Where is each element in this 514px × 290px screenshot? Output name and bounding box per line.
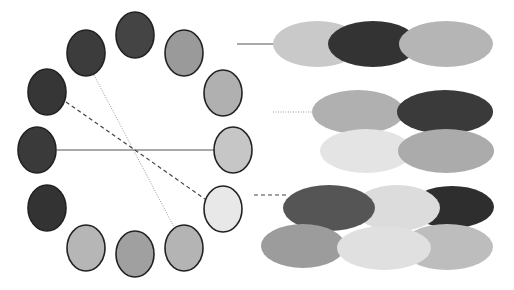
group-dashed-ellipse-2 xyxy=(283,185,375,231)
group-solid-ellipse-2 xyxy=(399,21,493,67)
ellipse-groups xyxy=(237,21,494,270)
group-solid xyxy=(237,21,493,67)
ring-circle-bottom-right xyxy=(165,225,203,271)
ring-circle-left xyxy=(18,127,56,173)
ring-circle-top xyxy=(116,12,154,58)
ring-circle-left-lower xyxy=(28,185,66,231)
connector-lines xyxy=(57,75,214,227)
ring-circle-left-upper xyxy=(28,69,66,115)
group-dotted-ellipse-0 xyxy=(312,90,404,134)
group-dashed xyxy=(254,185,494,270)
group-dashed-ellipse-3 xyxy=(261,224,345,268)
dotted-connector-line xyxy=(94,75,174,227)
group-dashed-ellipse-5 xyxy=(337,226,431,270)
group-dotted xyxy=(273,90,494,173)
ring-circle-bottom-left xyxy=(67,225,105,271)
ring-circle-bottom xyxy=(116,231,154,277)
ring-circle-right xyxy=(214,127,252,173)
circle-grouping-diagram xyxy=(0,0,514,290)
group-dotted-ellipse-3 xyxy=(398,129,494,173)
ring-circle-right-upper xyxy=(204,70,242,116)
group-dotted-ellipse-1 xyxy=(397,90,493,134)
ring-circle-upper-left xyxy=(67,30,105,76)
ring-circle-top-right xyxy=(165,30,203,76)
circle-ring xyxy=(18,12,252,277)
ring-circle-right-lower xyxy=(204,186,242,232)
